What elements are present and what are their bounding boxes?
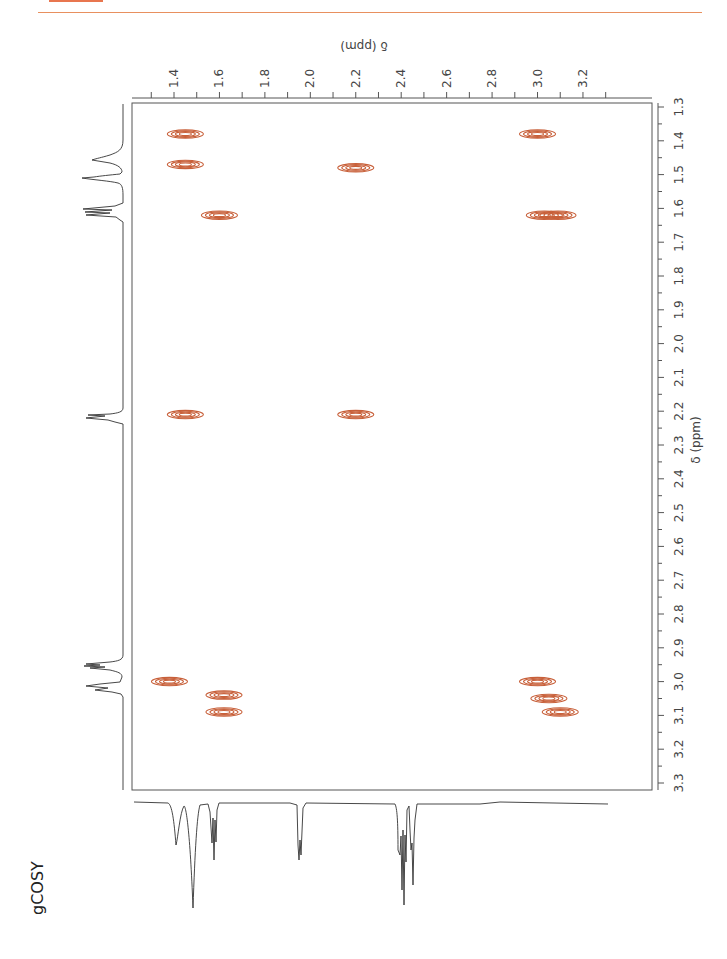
- bottom-projection-spectrum: [134, 802, 608, 908]
- top-tick-label: 1.6: [212, 69, 226, 88]
- right-tick-label: 2.4: [672, 469, 686, 488]
- right-tick-label: 2.5: [672, 503, 686, 522]
- right-tick-label: 2.3: [672, 435, 686, 454]
- right-tick-label: 2.9: [672, 638, 686, 657]
- cross-peak: [542, 708, 578, 716]
- cross-peak: [338, 410, 374, 418]
- cross-peak: [520, 130, 556, 138]
- right-tick-label: 3.1: [672, 706, 686, 725]
- top-tick-label: 3.2: [576, 69, 590, 88]
- right-tick-label: 2.1: [672, 368, 686, 387]
- top-tick-label: 2.4: [394, 69, 408, 88]
- right-tick-label: 1.6: [672, 199, 686, 218]
- cross-peak: [531, 694, 567, 702]
- cross-peak: [206, 691, 242, 699]
- right-tick-label: 1.4: [672, 131, 686, 150]
- top-axis-label: δ (ppm): [340, 39, 387, 53]
- top-tick-label: 1.8: [258, 69, 272, 88]
- right-tick-label: 3.2: [672, 740, 686, 759]
- right-axis-label: δ (ppm): [689, 416, 703, 463]
- plot-frame: [132, 103, 652, 790]
- right-tick-label: 2.8: [672, 604, 686, 623]
- chart-caption: gCOSY: [28, 861, 47, 915]
- right-tick-label: 2.7: [672, 571, 686, 590]
- right-tick-label: 2.6: [672, 537, 686, 556]
- caption-container: gCOSY: [28, 915, 48, 959]
- right-tick-label: 2.2: [672, 402, 686, 421]
- cross-peak: [167, 410, 203, 418]
- top-tick-label: 2.6: [440, 69, 454, 88]
- right-tick-label: 1.5: [672, 165, 686, 184]
- cross-peak: [520, 677, 556, 685]
- right-tick-label: 1.3: [672, 97, 686, 116]
- cross-peak: [201, 211, 237, 219]
- cross-peak: [151, 677, 187, 685]
- right-tick-label: 3.3: [672, 773, 686, 792]
- top-tick-label: 1.4: [167, 69, 181, 88]
- gcosy-chart: δ (ppm) 1.41.61.82.02.22.42.62.83.03.2 1…: [0, 0, 727, 959]
- top-tick-label: 2.8: [485, 69, 499, 88]
- cross-peak-contours: [151, 130, 578, 716]
- top-tick-label: 3.0: [531, 69, 545, 88]
- top-tick-label: 2.2: [349, 69, 363, 88]
- cross-peak: [338, 164, 374, 172]
- cross-peak: [206, 708, 242, 716]
- cross-peak: [167, 160, 203, 168]
- right-tick-label: 1.9: [672, 300, 686, 319]
- right-tick-label: 1.8: [672, 266, 686, 285]
- right-tick-label: 3.0: [672, 672, 686, 691]
- top-tick-label: 2.0: [303, 69, 317, 88]
- left-projection-spectrum: [82, 104, 123, 790]
- right-tick-label: 1.7: [672, 233, 686, 252]
- top-axis-ticks: 1.41.61.82.02.22.42.62.83.03.2: [151, 69, 605, 98]
- cross-peak: [167, 130, 203, 138]
- right-axis-ticks: 1.31.41.51.61.71.81.92.02.12.22.32.42.52…: [658, 97, 686, 792]
- right-tick-label: 2.0: [672, 334, 686, 353]
